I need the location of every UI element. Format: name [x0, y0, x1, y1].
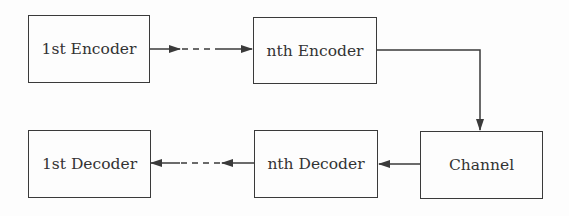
edge-encn-channel [377, 50, 480, 130]
node-label: Channel [449, 156, 514, 174]
node-label: 1st Decoder [42, 155, 137, 173]
node-nth-decoder: nth Decoder [254, 130, 378, 198]
node-channel: Channel [420, 131, 543, 199]
node-1st-encoder: 1st Encoder [28, 15, 150, 83]
node-label: nth Decoder [267, 155, 364, 173]
node-label: nth Encoder [267, 42, 364, 60]
node-nth-encoder: nth Encoder [253, 17, 377, 84]
node-1st-decoder: 1st Decoder [28, 130, 151, 198]
node-label: 1st Encoder [42, 40, 137, 58]
